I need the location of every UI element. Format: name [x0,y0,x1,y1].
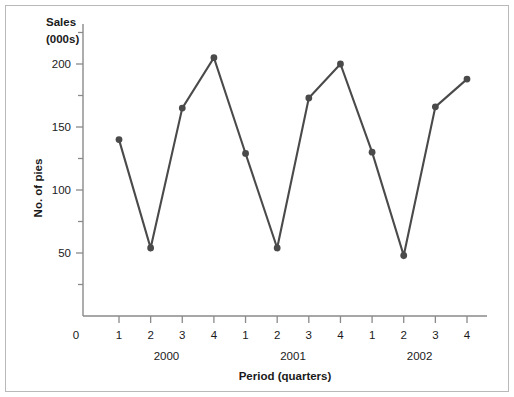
y-axis-title: No. of pies [32,159,44,218]
y-axis-tick-label: 200 [52,58,71,70]
y-axis-tick-label: 150 [52,121,71,133]
series-line-no-of-pies [119,58,467,256]
data-point-marker [116,136,123,143]
origin-label: 0 [73,329,79,341]
y-axis-tick-label: 50 [58,247,71,259]
y-axis-unit-caption-line1: Sales [46,16,76,28]
x-axis-tick-label: 4 [337,329,344,341]
data-point-marker [305,95,312,102]
x-axis-group-label: 2000 [154,350,180,362]
x-axis-tick-label: 4 [464,329,471,341]
x-axis-group-label: 2002 [407,350,433,362]
data-point-marker [464,76,471,83]
x-axis-tick-label: 3 [306,329,312,341]
x-axis-tick-label: 1 [369,329,375,341]
y-axis-tick-label: 100 [52,184,71,196]
x-axis-tick-label: 4 [211,329,218,341]
x-axis-title: Period (quarters) [239,370,332,382]
y-axis-unit-caption-line2: (000s) [46,33,79,45]
line-chart-canvas: 501001502000123412341234200020012002Peri… [0,0,514,397]
data-point-marker [211,54,218,61]
x-axis-tick-label: 3 [432,329,438,341]
x-axis-tick-label: 3 [179,329,185,341]
chart-figure: 501001502000123412341234200020012002Peri… [0,0,514,397]
data-point-marker [274,245,281,252]
x-axis-tick-label: 1 [116,329,122,341]
data-point-marker [337,61,344,68]
x-axis-tick-label: 2 [147,329,153,341]
data-point-marker [242,150,249,157]
x-axis-group-label: 2001 [280,350,306,362]
data-point-marker [432,103,439,110]
data-point-marker [147,245,154,252]
x-axis-tick-label: 2 [274,329,280,341]
data-point-marker [369,149,376,156]
x-axis-tick-label: 1 [242,329,248,341]
data-point-marker [179,105,186,112]
data-point-marker [400,252,407,259]
x-axis-tick-label: 2 [401,329,407,341]
